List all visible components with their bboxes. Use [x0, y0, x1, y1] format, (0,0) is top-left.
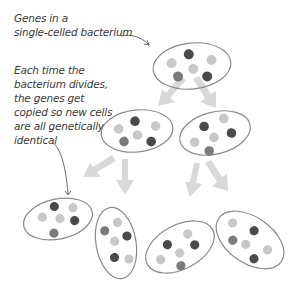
label-line: bacterium divides, — [14, 77, 112, 91]
label-line: are all genetically — [14, 119, 112, 133]
granddaughter-cell-1 — [20, 192, 97, 246]
parent-cell — [151, 39, 233, 93]
label-line: identical — [14, 133, 112, 147]
daughter-cell-right — [175, 104, 255, 162]
pointer-line-child — [53, 143, 68, 194]
granddaughter-cell-2 — [90, 204, 142, 282]
label-line: Each time the — [14, 63, 112, 77]
label-single-bacterium: Genes in a single-celled bacterium — [14, 11, 132, 39]
granddaughter-cell-3 — [137, 210, 223, 284]
label-line: copied so new cells — [14, 105, 112, 119]
label-line: single-celled bacterium — [14, 25, 132, 39]
granddaughter-cell-4 — [206, 199, 290, 280]
label-line: the genes get — [14, 91, 112, 105]
label-line: Genes in a — [14, 11, 132, 25]
label-division-explanation: Each time the bacterium divides, the gen… — [14, 63, 112, 147]
division-arrow — [83, 155, 228, 197]
